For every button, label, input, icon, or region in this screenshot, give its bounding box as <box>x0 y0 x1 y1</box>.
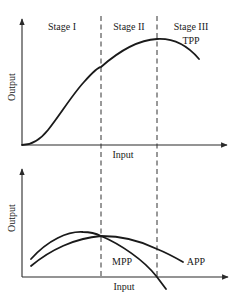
top-x-axis-label: Input <box>112 149 133 160</box>
stage-1-label: Stage I <box>48 21 76 32</box>
mpp-label: MPP <box>112 256 132 267</box>
tpp-label: TPP <box>182 35 200 46</box>
stage-3-label: Stage III <box>174 21 209 32</box>
top-panel: Output Input Stage I Stage II Stage III … <box>6 19 227 160</box>
app-label: APP <box>187 256 206 267</box>
production-stages-diagram: Output Input Stage I Stage II Stage III … <box>0 0 236 305</box>
top-y-axis-label: Output <box>6 73 17 101</box>
bottom-x-axis-label: Input <box>113 281 134 292</box>
mpp-curve <box>31 232 166 289</box>
bottom-panel: Output Input MPP APP <box>6 169 228 292</box>
tpp-curve <box>22 39 199 145</box>
stage-2-label: Stage II <box>113 21 144 32</box>
bottom-y-axis-label: Output <box>6 204 17 232</box>
